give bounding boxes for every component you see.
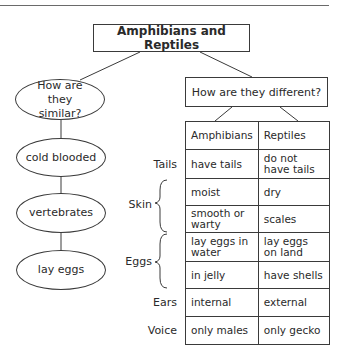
row-label-ears: Ears <box>137 296 177 309</box>
table-row: in jelly have shells <box>186 262 330 289</box>
cell-reptiles: scales <box>258 206 329 233</box>
connector-title-different <box>200 52 252 77</box>
cell-amphibians: internal <box>186 289 259 317</box>
similar-item-text: lay eggs <box>38 263 84 277</box>
brace-skin <box>155 180 167 232</box>
connector-different-amphibians <box>215 107 232 121</box>
cell-reptiles: lay eggs on land <box>258 233 329 262</box>
cell-amphibians: moist <box>186 179 259 206</box>
header-reptiles: Reptiles <box>258 122 329 150</box>
table-row: have tails do not have tails <box>186 150 330 179</box>
connector-title-similar <box>80 52 140 80</box>
similar-item-text: cold blooded <box>26 151 97 165</box>
cell-reptiles: external <box>258 289 329 317</box>
table-row: lay eggs in water lay eggs on land <box>186 233 330 262</box>
table-row: internal external <box>186 289 330 317</box>
different-question-box: How are they different? <box>185 77 328 107</box>
cell-reptiles: only gecko <box>258 317 329 345</box>
row-label-tails: Tails <box>137 158 177 171</box>
similar-item-node: lay eggs <box>16 250 106 290</box>
connector-different-reptiles <box>280 107 298 121</box>
comparison-table: Amphibians Reptiles have tails do not ha… <box>185 121 330 345</box>
row-label-eggs: Eggs <box>112 255 152 268</box>
brace-eggs <box>155 234 167 288</box>
table-row: smooth or warty scales <box>186 206 330 233</box>
table-row: only males only gecko <box>186 317 330 345</box>
header-amphibians: Amphibians <box>186 122 259 150</box>
similar-question-text: How are they similar? <box>30 79 90 121</box>
row-label-voice: Voice <box>137 324 177 337</box>
similar-item-text: vertebrates <box>29 206 93 220</box>
table-row: moist dry <box>186 179 330 206</box>
cell-amphibians: have tails <box>186 150 259 179</box>
similar-item-node: cold blooded <box>16 138 106 177</box>
cell-amphibians: lay eggs in water <box>186 233 259 262</box>
title-box: Amphibians and Reptiles <box>93 24 250 52</box>
cell-reptiles: do not have tails <box>258 150 329 179</box>
table-header-row: Amphibians Reptiles <box>186 122 330 150</box>
cell-reptiles: dry <box>258 179 329 206</box>
cell-amphibians: only males <box>186 317 259 345</box>
similar-question-node: How are they similar? <box>15 79 105 120</box>
row-label-skin: Skin <box>112 198 152 211</box>
cell-amphibians: in jelly <box>186 262 259 289</box>
cell-amphibians: smooth or warty <box>186 206 259 233</box>
similar-item-node: vertebrates <box>16 193 106 233</box>
cell-reptiles: have shells <box>258 262 329 289</box>
